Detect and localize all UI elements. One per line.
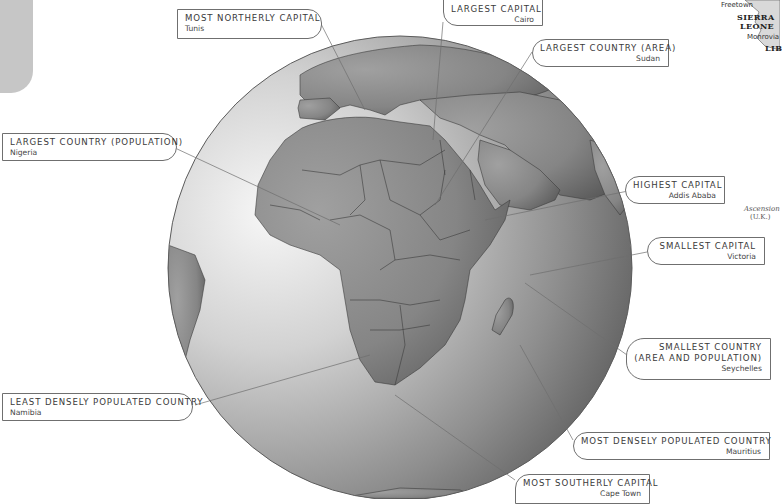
island-ascension: Ascension (744, 205, 780, 213)
country-liberia-partial: LIB (765, 43, 782, 53)
label-smallest-country: SMALLEST COUNTRY (AREA AND POPULATION) S… (626, 338, 771, 380)
label-largest-country-area: LARGEST COUNTRY (AREA) Sudan (532, 39, 669, 67)
label-smallest-capital: SMALLEST CAPITAL Victoria (647, 237, 765, 265)
label-most-northerly-capital: MOST NORTHERLY CAPITAL Tunis (177, 9, 322, 39)
label-most-southerly-capital: MOST SOUTHERLY CAPITAL Cape Town (515, 474, 650, 504)
island-ascension-note: (U.K.) (750, 213, 770, 221)
city-monrovia: Monrovia (747, 33, 779, 41)
label-most-densely-populated: MOST DENSELY POPULATED COUNTRY Mauritius (573, 432, 770, 460)
label-highest-capital: HIGHEST CAPITAL Addis Ababa (625, 176, 725, 204)
label-largest-country-population: LARGEST COUNTRY (POPULATION) Nigeria (2, 133, 177, 161)
label-largest-capital: LARGEST CAPITAL Cairo (443, 0, 543, 26)
city-freetown: Freetown (721, 1, 753, 9)
country-leone: LEONE (740, 21, 774, 31)
label-least-densely-populated: LEAST DENSELY POPULATED COUNTRY Namibia (2, 393, 193, 421)
